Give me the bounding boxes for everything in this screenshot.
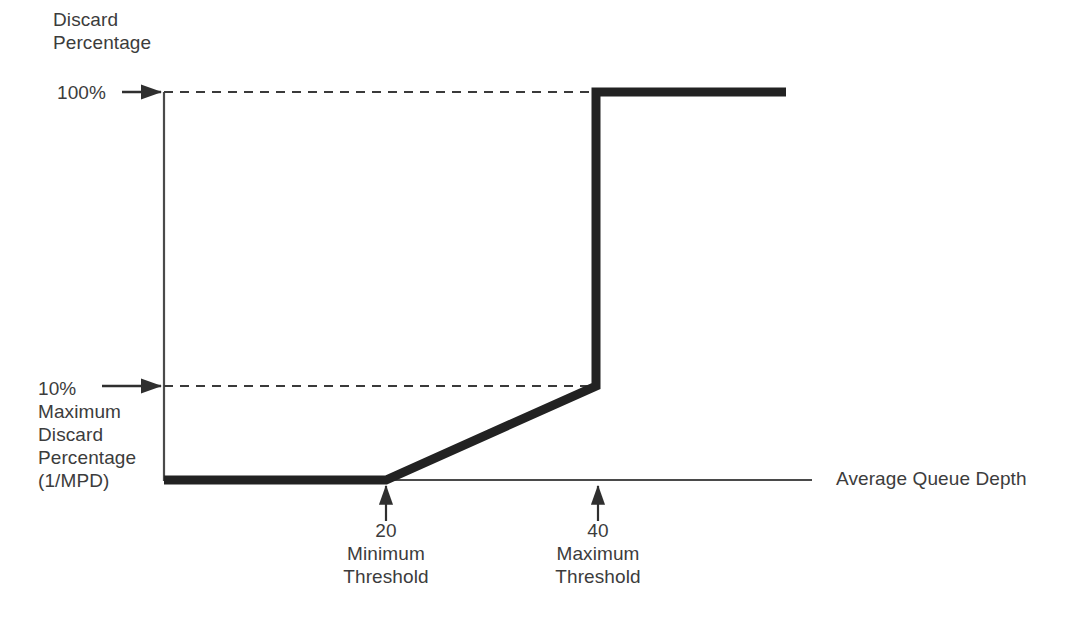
x-tick-label-minimum-threshold: 20 Minimum Threshold (343, 519, 428, 588)
discard-percentage-chart: Discard Percentage 100% 10% Maximum Disc… (0, 0, 1092, 627)
chart-canvas (0, 0, 1092, 627)
y-axis-title: Discard Percentage (53, 8, 151, 54)
x-axis-title: Average Queue Depth (836, 467, 1027, 490)
y-tick-label-100-percent: 100% (57, 81, 106, 104)
discard-profile-curve (164, 92, 786, 480)
x-tick-label-maximum-threshold: 40 Maximum Threshold (555, 519, 640, 588)
y-axis-annotation-max-discard-percentage: 10% Maximum Discard Percentage (1/MPD) (38, 377, 136, 492)
